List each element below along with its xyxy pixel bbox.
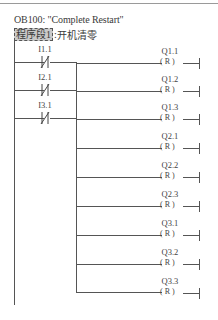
normally-closed-contact-icon [40,84,50,96]
coil-address: Q1.2 [155,74,185,84]
reset-coil-icon: ( R ) [160,113,175,122]
coil-end-mark [199,259,200,270]
coil-address: Q2.2 [155,160,185,170]
coil-address: Q1.3 [155,102,185,112]
coil-address: Q2.3 [155,189,185,199]
coil-end-mark [199,143,200,154]
coil-end-mark [199,172,200,183]
coil-address: Q3.3 [155,276,185,286]
coil-end-mark [199,288,200,299]
coil-address: Q3.2 [155,247,185,257]
reset-coil-icon: ( R ) [160,258,175,267]
contact-address: I1.1 [30,44,60,54]
left-power-rail [14,40,15,305]
normally-closed-contact-icon [40,56,50,68]
reset-coil-icon: ( R ) [160,200,175,209]
network-label[interactable]: 程序段1 [14,28,53,41]
reset-coil-icon: ( R ) [160,85,175,94]
top-border [0,3,218,4]
coil-end-mark [199,201,200,212]
coil-end-mark [199,230,200,241]
coil-end-mark [199,58,200,69]
network-header: 程序段1 : 开机清零 [14,27,97,42]
contact-address: I3.1 [30,100,60,110]
coil-end-mark [199,86,200,97]
reset-coil-icon: ( R ) [160,229,175,238]
coil-end-mark [199,114,200,125]
coil-address: Q3.1 [155,218,185,228]
normally-closed-contact-icon [40,112,50,124]
reset-coil-icon: ( R ) [160,142,175,151]
reset-coil-icon: ( R ) [160,57,175,66]
reset-coil-icon: ( R ) [160,171,175,180]
block-title: OB100: "Complete Restart" [14,14,124,25]
reset-coil-icon: ( R ) [160,287,175,296]
coil-address: Q2.1 [155,131,185,141]
contact-address: I2.1 [30,72,60,82]
network-comment: 开机清零 [57,27,97,42]
coil-address: Q1.1 [155,46,185,56]
